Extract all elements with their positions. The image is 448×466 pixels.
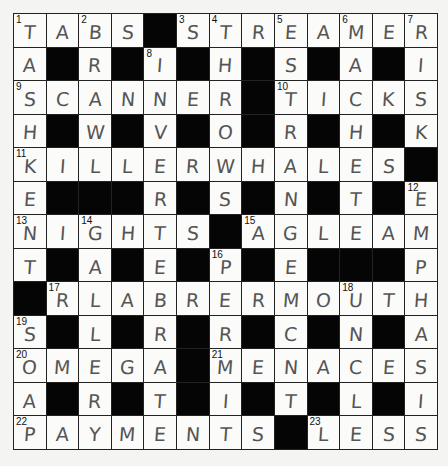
grid-cell[interactable]: O	[210, 115, 242, 148]
grid-cell[interactable]: O	[308, 282, 340, 315]
grid-cell[interactable]: 4T	[210, 14, 242, 47]
grid-cell[interactable]: 9S	[14, 81, 46, 114]
grid-cell[interactable]: R	[210, 81, 242, 114]
grid-cell[interactable]: A	[79, 81, 111, 114]
grid-cell[interactable]: 21M	[210, 349, 242, 382]
grid-cell[interactable]: N	[340, 316, 372, 349]
grid-cell[interactable]: I	[47, 148, 79, 181]
grid-cell[interactable]: E	[373, 14, 405, 47]
grid-cell[interactable]: 8I	[144, 48, 176, 81]
grid-cell[interactable]: R	[177, 148, 209, 181]
grid-cell[interactable]: L	[79, 282, 111, 315]
grid-cell[interactable]: C	[340, 81, 372, 114]
grid-cell[interactable]: B	[144, 282, 176, 315]
grid-cell[interactable]: S	[405, 416, 437, 449]
grid-cell[interactable]: S	[112, 14, 144, 47]
grid-cell[interactable]: 18U	[340, 282, 372, 315]
grid-cell[interactable]: S	[242, 416, 274, 449]
grid-cell[interactable]: K	[405, 115, 437, 148]
grid-cell[interactable]: T	[144, 215, 176, 248]
grid-cell[interactable]: E	[242, 349, 274, 382]
grid-cell[interactable]: 22P	[14, 416, 46, 449]
grid-cell[interactable]: A	[373, 215, 405, 248]
grid-cell[interactable]: N	[112, 81, 144, 114]
grid-cell[interactable]: N	[275, 182, 307, 215]
grid-cell[interactable]: L	[340, 383, 372, 416]
grid-cell[interactable]: R	[177, 282, 209, 315]
grid-cell[interactable]: A	[275, 148, 307, 181]
grid-cell[interactable]: R	[144, 182, 176, 215]
grid-cell[interactable]: 11K	[14, 148, 46, 181]
grid-cell[interactable]: L	[79, 148, 111, 181]
grid-cell[interactable]: I	[405, 383, 437, 416]
grid-cell[interactable]: T	[373, 282, 405, 315]
grid-cell[interactable]: N	[144, 81, 176, 114]
grid-cell[interactable]: 3S	[177, 14, 209, 47]
grid-cell[interactable]: 14G	[79, 215, 111, 248]
grid-cell[interactable]: A	[47, 416, 79, 449]
grid-cell[interactable]: A	[112, 282, 144, 315]
grid-cell[interactable]: S	[275, 48, 307, 81]
grid-cell[interactable]: E	[340, 148, 372, 181]
grid-cell[interactable]: M	[112, 416, 144, 449]
grid-cell[interactable]: 15A	[242, 215, 274, 248]
grid-cell[interactable]: 1T	[14, 14, 46, 47]
grid-cell[interactable]: 19S	[14, 316, 46, 349]
grid-cell[interactable]: W	[210, 148, 242, 181]
grid-cell[interactable]: G	[112, 349, 144, 382]
grid-cell[interactable]: M	[405, 215, 437, 248]
grid-cell[interactable]: 7R	[405, 14, 437, 47]
grid-cell[interactable]: 2B	[79, 14, 111, 47]
grid-cell[interactable]: H	[340, 115, 372, 148]
grid-cell[interactable]: E	[210, 282, 242, 315]
grid-cell[interactable]: H	[242, 148, 274, 181]
grid-cell[interactable]: K	[373, 81, 405, 114]
grid-cell[interactable]: I	[405, 48, 437, 81]
grid-cell[interactable]: 5E	[275, 14, 307, 47]
grid-cell[interactable]: E	[14, 182, 46, 215]
grid-cell[interactable]: R	[275, 115, 307, 148]
grid-cell[interactable]: E	[144, 249, 176, 282]
grid-cell[interactable]: H	[112, 215, 144, 248]
grid-cell[interactable]: E	[144, 416, 176, 449]
grid-cell[interactable]: W	[79, 115, 111, 148]
grid-cell[interactable]: L	[308, 215, 340, 248]
grid-cell[interactable]: T	[14, 249, 46, 282]
grid-cell[interactable]: H	[14, 115, 46, 148]
grid-cell[interactable]: C	[275, 316, 307, 349]
grid-cell[interactable]: E	[177, 81, 209, 114]
grid-cell[interactable]: S	[405, 349, 437, 382]
grid-cell[interactable]: R	[79, 383, 111, 416]
grid-cell[interactable]: 13N	[14, 215, 46, 248]
grid-cell[interactable]: A	[405, 316, 437, 349]
grid-cell[interactable]: L	[79, 316, 111, 349]
grid-cell[interactable]: R	[210, 316, 242, 349]
grid-cell[interactable]: T	[340, 182, 372, 215]
grid-cell[interactable]: V	[144, 115, 176, 148]
grid-cell[interactable]: 20O	[14, 349, 46, 382]
grid-cell[interactable]: T	[275, 383, 307, 416]
grid-cell[interactable]: S	[373, 416, 405, 449]
grid-cell[interactable]: R	[79, 48, 111, 81]
grid-cell[interactable]: C	[47, 81, 79, 114]
grid-cell[interactable]: I	[210, 383, 242, 416]
grid-cell[interactable]: 16P	[210, 249, 242, 282]
grid-cell[interactable]: A	[308, 14, 340, 47]
grid-cell[interactable]: 6M	[340, 14, 372, 47]
grid-cell[interactable]: S	[177, 215, 209, 248]
grid-cell[interactable]: E	[275, 249, 307, 282]
grid-cell[interactable]: H	[210, 48, 242, 81]
grid-cell[interactable]: 17R	[47, 282, 79, 315]
grid-cell[interactable]: A	[144, 349, 176, 382]
grid-cell[interactable]: P	[405, 249, 437, 282]
grid-cell[interactable]: I	[47, 215, 79, 248]
grid-cell[interactable]: S	[210, 182, 242, 215]
grid-cell[interactable]: N	[177, 416, 209, 449]
grid-cell[interactable]: E	[340, 215, 372, 248]
grid-cell[interactable]: A	[308, 349, 340, 382]
grid-cell[interactable]: N	[275, 349, 307, 382]
grid-cell[interactable]: M	[275, 282, 307, 315]
grid-cell[interactable]: T	[144, 383, 176, 416]
grid-cell[interactable]: E	[144, 148, 176, 181]
grid-cell[interactable]: C	[340, 349, 372, 382]
